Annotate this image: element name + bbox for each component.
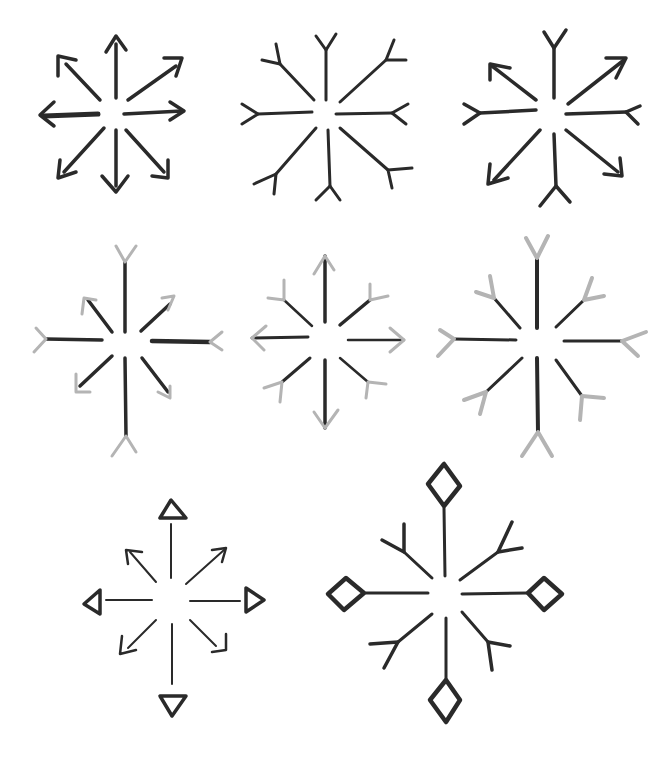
snowflake-canvas bbox=[0, 0, 672, 764]
snowflake-1-arrows bbox=[40, 36, 184, 192]
snowflake-6-light-tips bbox=[438, 236, 646, 456]
snowflake-4-light-tips bbox=[34, 246, 222, 456]
snowflake-7-triangles bbox=[84, 500, 264, 716]
snowflake-2-forks bbox=[242, 34, 412, 200]
snowflake-3-mixed bbox=[464, 30, 640, 206]
snowflake-5-light-tips bbox=[252, 256, 404, 428]
snowflake-8-diamonds bbox=[328, 464, 562, 722]
